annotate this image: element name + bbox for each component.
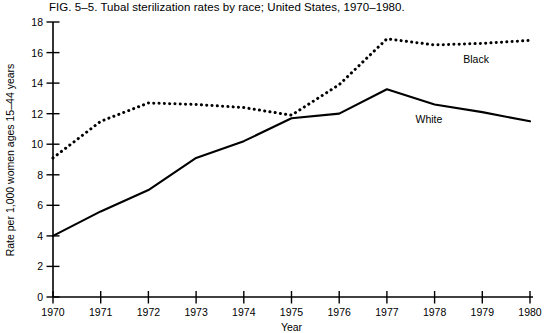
x-tick-label: 1979 [471, 306, 495, 318]
y-tick-label: 12 [31, 108, 43, 120]
x-tick-label: 1970 [41, 306, 65, 318]
x-tick-label: 1978 [423, 306, 447, 318]
x-tick-label: 1980 [518, 306, 542, 318]
y-tick-label: 2 [37, 260, 43, 272]
x-axis-title: Year [281, 321, 303, 333]
y-tick-label: 10 [31, 138, 43, 150]
x-tick-label: 1975 [280, 306, 304, 318]
y-tick-label: 0 [37, 291, 43, 303]
series-line-black [53, 39, 530, 158]
x-tick-label: 1973 [184, 306, 208, 318]
x-tick-label: 1976 [328, 306, 352, 318]
x-tick-label: 1972 [137, 306, 161, 318]
series-label-white: White [416, 113, 443, 125]
chart-plot: 0 2 4 6 8 10 12 14 16 18 1970 [0, 0, 547, 333]
y-tick-label: 4 [37, 230, 43, 242]
y-tick-label: 14 [31, 77, 43, 89]
y-axis-tick-labels: 0 2 4 6 8 10 12 14 16 18 [31, 16, 43, 303]
y-tick-label: 8 [37, 169, 43, 181]
y-axis-title: Rate per 1,000 women ages 15–44 years [4, 64, 16, 257]
y-tick-label: 18 [31, 16, 43, 28]
x-tick-label: 1974 [232, 306, 256, 318]
x-axis-tick-labels: 1970 1971 1972 1973 1974 1975 1976 1977 … [41, 306, 542, 318]
y-tick-label: 6 [37, 199, 43, 211]
x-tick-label: 1977 [375, 306, 399, 318]
series-label-black: Black [463, 53, 489, 65]
x-tick-label: 1971 [89, 306, 113, 318]
figure-container: FIG. 5–5. Tubal sterilization rates by r… [0, 0, 547, 333]
y-tick-label: 16 [31, 47, 43, 59]
